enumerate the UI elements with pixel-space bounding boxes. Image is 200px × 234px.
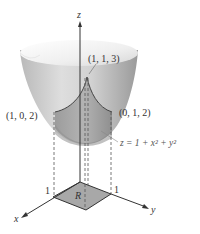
point-label-113: (1, 1, 3): [88, 53, 120, 65]
x-tick-label: 1: [45, 185, 50, 196]
region-r: [53, 182, 111, 210]
x-axis-label: x: [13, 213, 19, 224]
y-axis-arrow: [142, 204, 149, 209]
point-label-102: (1, 0, 2): [6, 110, 38, 122]
y-axis: [111, 194, 146, 207]
z-axis-arrow: [78, 21, 82, 27]
point-label-012: (0, 1, 2): [119, 107, 151, 119]
x-axis-arrow: [21, 212, 28, 218]
paraboloid-diagram: z (1, 1, 3) (1, 0, 2) (0, 1, 2) z = 1 + …: [0, 0, 200, 234]
y-axis-label: y: [150, 204, 156, 215]
z-axis-label: z: [76, 9, 81, 20]
surface-equation: z = 1 + x² + y²: [119, 138, 176, 148]
paraboloid-rim: [20, 40, 138, 66]
region-label: R: [74, 190, 81, 201]
y-tick-label: 1: [114, 184, 119, 195]
diagram-canvas: z (1, 1, 3) (1, 0, 2) (0, 1, 2) z = 1 + …: [0, 0, 200, 234]
